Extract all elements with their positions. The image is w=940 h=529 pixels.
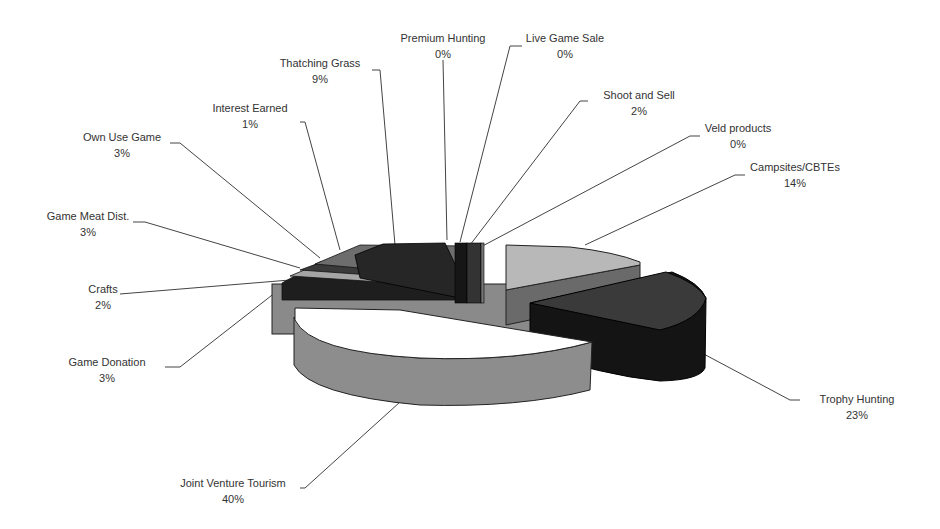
label-trophy-hunting: Trophy Hunting23% — [820, 391, 895, 423]
label-live-game-sale: Live Game Sale0% — [526, 30, 604, 62]
label-veld-products: Veld products0% — [705, 120, 772, 152]
label-thatching-grass: Thatching Grass9% — [280, 55, 361, 87]
pie-chart-3d — [0, 0, 940, 529]
label-joint-venture-tourism: Joint Venture Tourism40% — [180, 475, 286, 507]
label-crafts: Crafts2% — [88, 281, 117, 313]
label-game-donation: Game Donation3% — [68, 354, 145, 386]
label-interest-earned: Interest Earned1% — [212, 100, 287, 132]
label-shoot-and-sell: Shoot and Sell2% — [603, 87, 675, 119]
label-own-use-game: Own Use Game3% — [83, 129, 161, 161]
label-premium-hunting: Premium Hunting0% — [401, 30, 486, 62]
label-game-meat-dist: Game Meat Dist.3% — [47, 208, 130, 240]
label-campsites: Campsites/CBTEs14% — [750, 159, 840, 191]
slice-thin-top — [455, 243, 484, 303]
